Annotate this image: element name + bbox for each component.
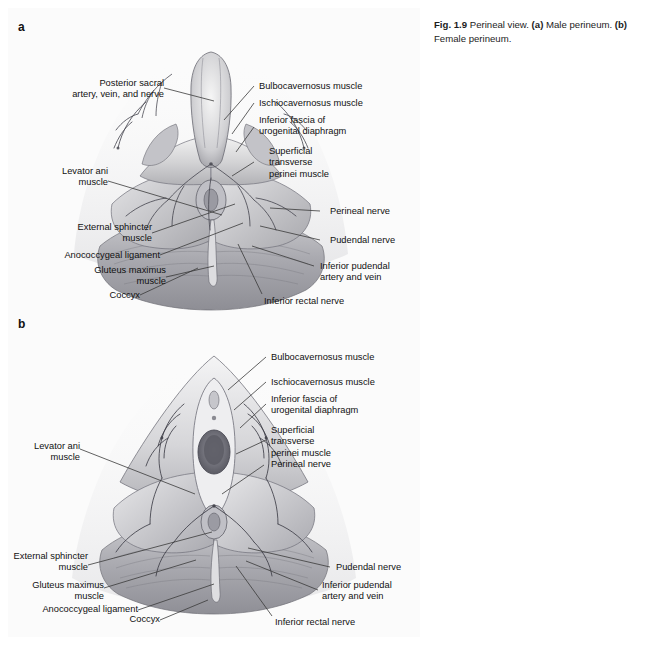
panel-letter-a: a bbox=[18, 20, 25, 34]
label-inferior-rectal-nerve-b: Inferior rectal nerve bbox=[275, 617, 405, 628]
label-inferior-fascia-of-urogenital-diaphragm-a: Inferior fascia of urogenital diaphragm bbox=[259, 115, 409, 138]
label-pudendal-nerve-b: Pudendal nerve bbox=[336, 562, 446, 573]
label-anococcygeal-ligament-a: Anococcygeal ligament bbox=[14, 250, 160, 261]
label-coccyx-a: Coccyx bbox=[96, 290, 140, 301]
label-levator-ani-muscle-a: Levator ani muscle bbox=[30, 166, 108, 189]
figure-caption: Fig. 1.9 Perineal view. (a) Male perineu… bbox=[434, 18, 640, 45]
label-bulbocavernosus-muscle-b: Bulbocavernosus muscle bbox=[271, 352, 421, 363]
caption-part-a-marker: (a) bbox=[532, 19, 544, 30]
label-external-sphincter-muscle-a: External sphincter muscle bbox=[20, 222, 152, 245]
label-gluteus-maximus-muscle-a: Gluteus maximus muscle bbox=[52, 265, 166, 288]
label-ischiocavernosus-muscle-a: Ischiocavernosus muscle bbox=[259, 98, 409, 109]
caption-figure-number: Fig. 1.9 bbox=[434, 19, 467, 30]
label-inferior-pudendal-artery-and-vein-a: Inferior pudendal artery and vein bbox=[320, 261, 440, 284]
panel-letter-b: b bbox=[18, 317, 25, 331]
caption-part-b-marker: (b) bbox=[615, 19, 627, 30]
label-inferior-fascia-of-urogenital-diaphragm-b: Inferior fascia of urogenital diaphragm bbox=[271, 394, 421, 417]
label-inferior-pudendal-artery-and-vein-b: Inferior pudendal artery and vein bbox=[322, 580, 442, 603]
label-bulbocavernosus-muscle-a: Bulbocavernosus muscle bbox=[259, 81, 409, 92]
label-pudendal-nerve-a: Pudendal nerve bbox=[330, 235, 440, 246]
label-levator-ani-muscle-b: Levator ani muscle bbox=[14, 441, 80, 464]
label-perineal-nerve-a: Perineal nerve bbox=[330, 206, 440, 217]
caption-part-b-text: Female perineum. bbox=[434, 33, 511, 44]
label-posterior-sacral-artery-vein-and-nerve: Posterior sacral artery, vein, and nerve bbox=[30, 78, 164, 101]
label-external-sphincter-muscle-b: External sphincter muscle bbox=[12, 551, 88, 574]
label-ischiocavernosus-muscle-b: Ischiocavernosus muscle bbox=[271, 377, 421, 388]
caption-title: Perineal view. bbox=[470, 19, 529, 30]
caption-part-a-text: Male perineum. bbox=[546, 19, 612, 30]
label-coccyx-b: Coccyx bbox=[116, 614, 160, 625]
label-gluteus-maximus-muscle-b: Gluteus maximus muscle bbox=[12, 580, 104, 603]
label-perineal-nerve-b: Perineal nerve bbox=[271, 459, 391, 470]
label-superficial-transverse-perinei-muscle-a: Superficial transverse perinei muscle bbox=[269, 146, 409, 180]
label-superficial-transverse-perinei-muscle-b: Superficial transverse perinei muscle bbox=[271, 425, 411, 459]
label-inferior-rectal-nerve-a: Inferior rectal nerve bbox=[264, 296, 394, 307]
